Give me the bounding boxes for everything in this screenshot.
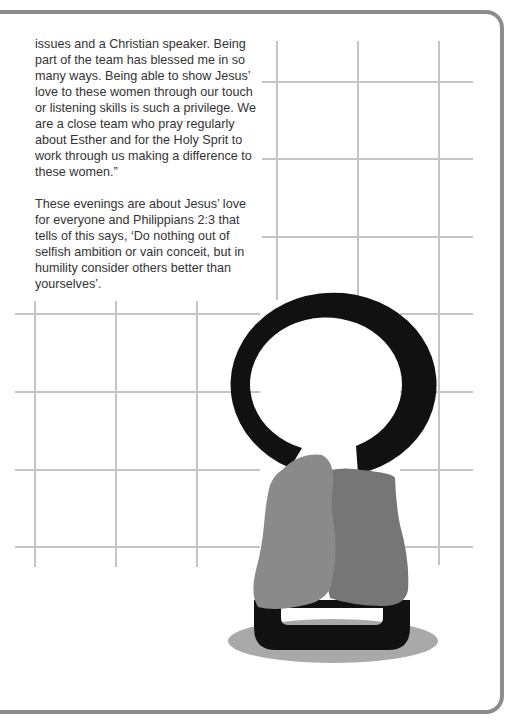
grid-left (15, 301, 260, 567)
article-text: issues and a Christian speaker. Being pa… (35, 36, 260, 308)
figure-right (325, 469, 408, 607)
paragraph-1: issues and a Christian speaker. Being pa… (35, 36, 260, 180)
paragraph-2: These evenings are about Jesus’ love for… (35, 196, 260, 292)
ring (231, 293, 437, 474)
figure-left (253, 455, 335, 610)
